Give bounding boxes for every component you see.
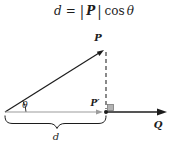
vector-q-arrowhead-icon	[157, 109, 167, 116]
right-angle-marker-icon	[108, 105, 114, 111]
vector-p-line	[5, 53, 99, 112]
vector-projection-figure: d = | P | cos θ P P′ Q θ d	[0, 0, 178, 151]
vector-p-arrowhead-icon	[97, 50, 104, 56]
angle-theta-label: θ	[22, 100, 28, 110]
diagram-canvas: P P′ Q θ d	[0, 0, 178, 151]
distance-d-label: d	[53, 131, 59, 142]
distance-brace	[5, 116, 106, 129]
vector-p-label: P	[93, 32, 102, 43]
projection-arrowhead-icon	[96, 109, 103, 114]
vector-q-label: Q	[154, 119, 163, 130]
projection-point-label: P′	[89, 98, 100, 108]
